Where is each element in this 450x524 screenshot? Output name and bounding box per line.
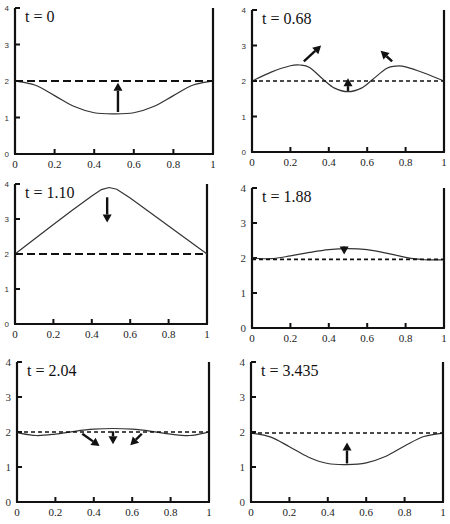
x-tick-label: 0.2 <box>284 156 298 168</box>
y-tick-label: 4 <box>241 182 247 194</box>
x-tick-label: 0.8 <box>399 156 413 168</box>
y-tick-label: 4 <box>5 4 10 13</box>
profile-curve <box>15 81 213 114</box>
x-tick-label: 0.6 <box>360 156 374 168</box>
x-tick-label: 0.6 <box>125 506 139 518</box>
x-tick-label: 0.8 <box>164 506 178 518</box>
x-tick-label: 0.2 <box>49 506 63 518</box>
panel-t-1-88: t = 1.88 0123400.20.40.60.81 <box>241 182 447 344</box>
y-tick-label: 4 <box>240 356 246 368</box>
x-tick-label: 0.4 <box>85 328 99 340</box>
y-tick-label: 2 <box>6 426 12 438</box>
profile-curve <box>252 249 444 260</box>
panel-t-3-435: t = 3.435 0123400.20.40.60.81 <box>240 356 446 518</box>
x-tick-label: 0 <box>12 158 18 170</box>
x-tick-label: 0.4 <box>321 506 335 518</box>
panel-title: t = 0.68 <box>262 10 311 27</box>
panel-t-0-68: t = 0.68 0123400.20.40.60.81 <box>242 6 447 168</box>
arrow-down-icon <box>340 247 349 255</box>
x-tick-label: 0.6 <box>123 328 137 340</box>
x-tick-label: 0.4 <box>87 506 101 518</box>
y-tick-label: 2 <box>5 77 10 86</box>
y-tick-label: 3 <box>241 217 247 229</box>
x-tick-label: 1 <box>210 158 216 170</box>
y-tick-label: 3 <box>6 391 12 403</box>
x-tick-label: 0.4 <box>87 158 101 170</box>
arrow-shaft <box>136 434 142 440</box>
y-tick-label: 3 <box>5 41 10 50</box>
arrow-up-icon <box>344 78 353 86</box>
y-tick-label: 0 <box>5 320 10 329</box>
x-tick-label: 0.8 <box>399 332 413 344</box>
y-tick-label: 4 <box>242 6 247 15</box>
y-tick-label: 0 <box>6 496 12 508</box>
x-tick-label: 0.8 <box>162 328 176 340</box>
y-tick-label: 2 <box>241 252 247 264</box>
arrow-shaft <box>304 51 315 62</box>
panel-title: t = 2.04 <box>27 362 76 379</box>
x-tick-label: 0.2 <box>283 506 297 518</box>
x-tick-label: 0.6 <box>127 158 141 170</box>
x-tick-label: 1 <box>440 506 446 518</box>
panel-title: t = 0 <box>25 8 54 25</box>
arrow-shaft <box>82 434 93 442</box>
panel-t-0: t = 0 0123400.20.40.60.81 <box>5 4 216 170</box>
panel-t-1-10: t = 1.10 0123400.20.40.60.81 <box>5 180 210 340</box>
x-tick-label: 0 <box>249 332 255 344</box>
arrow-shaft <box>387 56 393 61</box>
x-tick-label: 0 <box>12 328 18 340</box>
x-tick-label: 0 <box>14 506 20 518</box>
y-tick-label: 2 <box>240 426 246 438</box>
panel-t-2-04: t = 2.04 0123400.20.40.60.81 <box>6 356 212 518</box>
arrow-up-icon <box>113 83 122 91</box>
x-tick-label: 0 <box>248 506 254 518</box>
x-tick-label: 0.8 <box>398 506 412 518</box>
y-tick-label: 1 <box>5 114 10 123</box>
x-tick-label: 0.4 <box>322 332 336 344</box>
x-tick-label: 0.6 <box>360 332 374 344</box>
x-tick-label: 1 <box>204 328 210 340</box>
panel-title: t = 1.88 <box>262 188 311 205</box>
x-tick-label: 0.2 <box>48 158 62 170</box>
y-tick-label: 2 <box>5 250 10 259</box>
y-tick-label: 1 <box>240 461 246 473</box>
y-tick-label: 3 <box>240 391 246 403</box>
y-tick-label: 2 <box>242 77 247 86</box>
x-tick-label: 0 <box>249 156 255 168</box>
y-tick-label: 1 <box>242 113 247 122</box>
panel-title: t = 3.435 <box>261 362 318 379</box>
y-tick-label: 4 <box>6 356 12 368</box>
y-tick-label: 1 <box>241 287 247 299</box>
panel-title: t = 1.10 <box>25 184 74 201</box>
figure-canvas: t = 0 0123400.20.40.60.81 t = 0.68 01234… <box>0 0 450 524</box>
x-tick-label: 0.2 <box>47 328 61 340</box>
y-tick-label: 0 <box>240 496 246 508</box>
x-tick-label: 0.2 <box>284 332 298 344</box>
y-tick-label: 0 <box>241 322 247 334</box>
x-tick-label: 1 <box>206 506 212 518</box>
arrow-up-icon <box>343 443 352 451</box>
x-tick-label: 0.4 <box>322 156 336 168</box>
y-tick-label: 3 <box>242 42 247 51</box>
x-tick-label: 1 <box>441 156 447 168</box>
arrow-down-icon <box>109 436 118 444</box>
y-tick-label: 1 <box>5 285 10 294</box>
y-tick-label: 4 <box>5 180 10 189</box>
arrow-down-icon <box>103 215 112 223</box>
x-tick-label: 1 <box>441 332 447 344</box>
x-tick-label: 0.8 <box>167 158 181 170</box>
y-tick-label: 0 <box>242 148 247 157</box>
y-tick-label: 1 <box>6 461 12 473</box>
y-tick-label: 0 <box>5 150 10 159</box>
y-tick-label: 3 <box>5 215 10 224</box>
x-tick-label: 0.6 <box>359 506 373 518</box>
